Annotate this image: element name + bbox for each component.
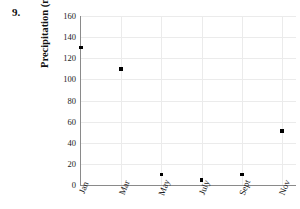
y-axis-tick-label: 100 [52,75,76,84]
y-axis-tick-label: 80 [52,97,76,106]
x-axis-tick-label: Sept [221,186,261,195]
data-point [79,46,83,50]
gridline-vertical [121,16,122,185]
gridline-horizontal [81,101,296,102]
x-axis-tick-label: Mar [100,186,140,195]
gridline-vertical [202,16,203,185]
gridline-horizontal [81,122,296,123]
data-point [240,173,244,177]
question-number: 9. [12,7,20,18]
y-axis-tick-label: 120 [52,54,76,63]
gridline-vertical [242,16,243,185]
data-point [280,129,284,133]
y-axis-tick-label: 40 [52,139,76,148]
x-axis-tick-label: Nov [261,186,300,195]
gridline-horizontal [81,58,296,59]
plot-area [80,16,296,186]
x-axis-tick-label: May [140,186,180,195]
data-point [160,173,164,177]
plot-inner [81,16,296,185]
y-axis-tick-labels: 160140120100806040200 [52,16,76,185]
gridline-horizontal [81,143,296,144]
gridline-horizontal [81,37,296,38]
chart-page: 9. Precipitation (mm) 160140120100806040… [0,0,300,209]
x-axis-tick-labels: JanMarMayJulySeptNov [80,186,295,209]
y-axis-tick-label: 20 [52,160,76,169]
y-axis-tick-label: 160 [52,12,76,21]
x-axis-tick-label: July [181,186,221,195]
data-point [119,67,123,71]
y-axis-tick-label: 60 [52,118,76,127]
y-axis-tick-label: 140 [52,33,76,42]
y-axis-title: Precipitation (mm) [38,0,52,68]
gridline-vertical [282,16,283,185]
gridline-vertical [161,16,162,185]
gridline-horizontal [81,164,296,165]
x-axis-tick-label: Jan [60,186,100,195]
gridline-horizontal [81,16,296,17]
gridline-horizontal [81,79,296,80]
